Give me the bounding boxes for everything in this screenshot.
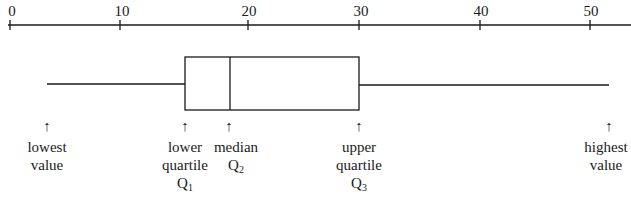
tick-label-20: 20 bbox=[242, 3, 257, 19]
arrow-up-icon: ↑ bbox=[181, 118, 189, 134]
arrow-up-icon: ↑ bbox=[605, 118, 613, 134]
iqr-box bbox=[185, 57, 359, 110]
label-upper-quartile: upper quartile Q3 bbox=[336, 138, 382, 197]
tick-label-10: 10 bbox=[115, 3, 130, 19]
arrow-up-icon: ↑ bbox=[43, 118, 51, 134]
boxplot-diagram bbox=[0, 0, 631, 199]
tick-label-30: 30 bbox=[354, 3, 369, 19]
label-lower-quartile: lower quartile Q1 bbox=[162, 138, 208, 197]
tick-label-40: 40 bbox=[474, 3, 489, 19]
label-lowest-value: lowest value bbox=[27, 138, 66, 174]
tick-label-50: 50 bbox=[584, 3, 599, 19]
tick-label-0: 0 bbox=[8, 3, 16, 19]
arrow-up-icon: ↑ bbox=[355, 118, 363, 134]
arrow-up-icon: ↑ bbox=[225, 118, 233, 134]
label-median: median Q2 bbox=[214, 138, 258, 179]
label-highest-value: highest value bbox=[584, 138, 627, 174]
